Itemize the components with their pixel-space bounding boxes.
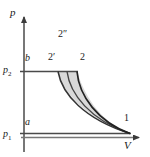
state-label-2: 2 bbox=[80, 52, 85, 62]
pv-diagram-canvas bbox=[0, 0, 150, 157]
pv-diagram-figure: p V p2 p1 b a 2′ 2″ 2 1 bbox=[0, 0, 150, 157]
y-tick-label-p1: p1 bbox=[3, 129, 12, 142]
y-tick-label-p2: p2 bbox=[3, 65, 12, 78]
state-label-1: 1 bbox=[124, 113, 129, 123]
x-axis-label: V bbox=[124, 140, 131, 151]
y-tick-p1-subscript: 1 bbox=[8, 134, 12, 142]
state-label-2-prime: 2′ bbox=[48, 52, 55, 62]
state-label-2-double-prime: 2″ bbox=[58, 29, 67, 39]
state-label-b: b bbox=[25, 53, 30, 63]
state-label-a: a bbox=[25, 117, 30, 127]
y-tick-p2-subscript: 2 bbox=[8, 70, 12, 78]
y-axis-label: p bbox=[10, 7, 16, 18]
